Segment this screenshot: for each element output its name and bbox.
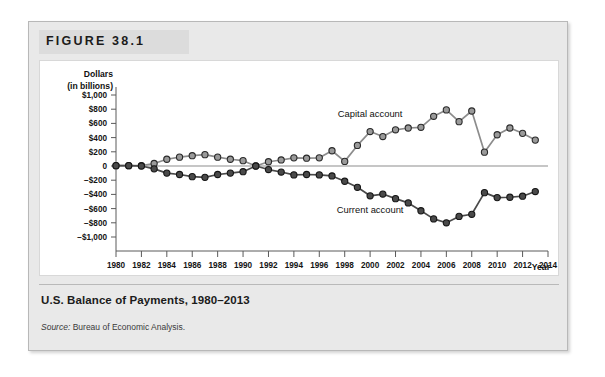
source-label: Source:: [41, 322, 70, 332]
data-point-current: [431, 216, 437, 222]
data-point-capital: [431, 113, 437, 119]
data-point-current: [176, 171, 182, 177]
y-axis-tick-label: −$600: [84, 205, 107, 214]
x-axis-tick-label: 2012: [513, 261, 532, 270]
data-point-current: [138, 163, 144, 169]
data-point-current: [202, 174, 208, 180]
data-point-current: [316, 172, 322, 178]
data-point-current: [392, 196, 398, 202]
y-axis-title-line1: Dollars: [84, 69, 113, 79]
caption-divider: [39, 284, 559, 285]
data-point-current: [291, 172, 297, 178]
data-point-current: [253, 163, 259, 169]
data-point-current: [405, 200, 411, 206]
y-axis-tick-label: −$1,000: [77, 233, 107, 242]
data-point-current: [303, 171, 309, 177]
y-axis-tick-label: 0: [102, 162, 107, 171]
data-point-current: [418, 208, 424, 214]
x-axis-tick-label: 1980: [107, 261, 126, 270]
data-point-capital: [418, 124, 424, 130]
data-point-current: [215, 171, 221, 177]
data-point-current: [151, 166, 157, 172]
x-axis-tick-label: 1998: [336, 261, 355, 270]
data-point-capital: [176, 154, 182, 160]
data-point-current: [240, 169, 246, 175]
x-axis-tick-label: 2010: [488, 261, 507, 270]
data-point-current: [329, 173, 335, 179]
data-point-capital: [494, 132, 500, 138]
x-axis-tick-label: 1990: [234, 261, 253, 270]
x-axis-tick-label: 2006: [437, 261, 456, 270]
data-point-current: [126, 163, 132, 169]
data-point-current: [342, 178, 348, 184]
x-axis-tick-label: 1982: [132, 261, 151, 270]
figure-label: FIGURE 38.1: [46, 34, 145, 48]
data-point-capital: [481, 149, 487, 155]
data-point-current: [380, 191, 386, 197]
balance-of-payments-line-chart: $1,000$800$600$400$2000−$200−$400−$600−$…: [40, 61, 558, 275]
x-axis-tick-label: 2000: [361, 261, 380, 270]
figure-card: FIGURE 38.1 $1,000$800$600$400$2000−$200…: [28, 21, 568, 351]
y-axis-tick-label: $200: [89, 148, 108, 157]
data-point-current: [456, 213, 462, 219]
data-point-capital: [240, 158, 246, 164]
data-point-capital: [392, 127, 398, 133]
data-point-capital: [202, 152, 208, 158]
data-point-capital: [367, 128, 373, 134]
data-point-capital: [456, 119, 462, 125]
figure-source: Source: Bureau of Economic Analysis.: [41, 322, 185, 332]
data-point-current: [164, 170, 170, 176]
data-point-current: [354, 184, 360, 190]
x-axis: 1980198219841986198819901992199419961998…: [107, 251, 558, 270]
data-point-capital: [215, 154, 221, 160]
data-point-capital: [278, 157, 284, 163]
data-point-capital: [227, 156, 233, 162]
data-point-capital: [354, 142, 360, 148]
data-point-capital: [316, 155, 322, 161]
chart-plot-area: $1,000$800$600$400$2000−$200−$400−$600−$…: [39, 60, 559, 276]
data-point-capital: [329, 148, 335, 154]
y-axis-tick-label: $600: [89, 119, 108, 128]
data-point-current: [507, 194, 513, 200]
data-point-capital: [265, 159, 271, 165]
data-point-current: [189, 174, 195, 180]
y-axis-tick-label: $1,000: [82, 91, 107, 100]
figure-caption: U.S. Balance of Payments, 1980–2013: [41, 294, 250, 306]
data-point-current: [481, 190, 487, 196]
y-axis-tick-label: −$400: [84, 190, 107, 199]
source-text: Bureau of Economic Analysis.: [70, 322, 185, 332]
series-label-current: Current account: [337, 204, 404, 215]
x-axis-title: Year: [532, 262, 551, 272]
x-axis-tick-label: 1984: [158, 261, 177, 270]
y-axis-tick-label: $400: [89, 134, 108, 143]
y-axis-tick-label: $800: [89, 105, 108, 114]
data-point-current: [443, 220, 449, 226]
data-point-capital: [164, 156, 170, 162]
x-axis-tick-label: 1996: [310, 261, 329, 270]
x-axis-tick-label: 2008: [463, 261, 482, 270]
data-point-current: [113, 163, 119, 169]
data-point-capital: [303, 155, 309, 161]
data-point-capital: [189, 153, 195, 159]
data-point-capital: [469, 108, 475, 114]
data-point-current: [227, 170, 233, 176]
data-point-capital: [380, 133, 386, 139]
data-point-capital: [405, 125, 411, 131]
data-point-current: [494, 194, 500, 200]
x-axis-tick-label: 2004: [412, 261, 431, 270]
data-point-capital: [291, 155, 297, 161]
x-axis-tick-label: 2002: [386, 261, 405, 270]
x-axis-tick-label: 1992: [259, 261, 278, 270]
data-point-capital: [443, 107, 449, 113]
data-point-current: [532, 188, 538, 194]
x-axis-tick-label: 1986: [183, 261, 202, 270]
series-label-capital: Capital account: [338, 108, 403, 119]
data-point-capital: [507, 125, 513, 131]
data-point-capital: [342, 158, 348, 164]
y-axis-tick-label: −$200: [84, 176, 107, 185]
x-axis-tick-label: 1994: [285, 261, 304, 270]
x-axis-tick-label: 1988: [209, 261, 228, 270]
data-point-current: [265, 166, 271, 172]
data-point-current: [469, 211, 475, 217]
y-axis-tick-label: −$800: [84, 219, 107, 228]
